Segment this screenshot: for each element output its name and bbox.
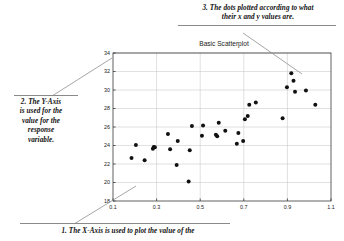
scatterplot-annotated-figure: Basic Scatterplot 1820222426283032340.10… [0,0,344,241]
y-axis-tick-label: 20 [96,179,110,185]
data-point [188,148,192,152]
data-point [223,129,227,133]
data-point [215,134,219,138]
annotation-3-line-2: their x and y values are. [176,13,340,22]
x-axis-tick-label: 1.1 [321,204,341,210]
data-point [281,116,285,120]
annotation-2-rule [14,95,78,96]
data-point [130,156,134,160]
annotation-1-x-axis: 1. The X-Axis is used to plot the value … [18,227,238,236]
data-point [313,103,317,107]
data-point [168,147,172,151]
data-point [235,142,239,146]
annotation-2-y-axis: 2. The Y-Axis is used for the value for … [4,98,78,145]
y-axis-tick-label: 24 [96,142,110,148]
y-axis-tick-label: 28 [96,105,110,111]
annotation-3-dots: 3. The dots plotted according to what th… [176,4,340,23]
data-point [175,163,179,167]
annotation-2-line-1: 2. The Y-Axis [4,98,78,107]
x-axis-tick-label: 0.1 [103,204,123,210]
annotation-2-line-4: response [4,126,78,135]
y-axis-tick-label: 26 [96,124,110,130]
data-point [241,139,245,143]
data-point [176,139,180,143]
data-point [134,143,138,147]
data-point [187,180,191,184]
data-point [200,134,204,138]
annotation-1-line-1: 1. The X-Axis is used to plot the value … [18,227,238,236]
x-axis-tick-label: 0.5 [190,204,210,210]
annotation-2-line-5: variable. [4,136,78,145]
data-point [243,117,247,121]
data-point [254,100,258,104]
data-point [304,88,308,92]
data-point [289,71,293,75]
data-point [247,103,251,107]
data-point [217,121,221,125]
y-axis-tick-label: 30 [96,87,110,93]
x-axis-tick-label: 0.3 [147,204,167,210]
data-point [285,85,289,89]
data-point [190,124,194,128]
y-axis-tick-label: 34 [96,50,110,56]
data-point [166,132,170,136]
data-point [292,79,296,83]
data-point [201,124,205,128]
data-point [153,145,157,149]
data-point [293,90,297,94]
data-point [246,114,250,118]
annotation-2-line-3: value for the [4,117,78,126]
x-axis-tick-label: 0.7 [234,204,254,210]
annotation-3-rule [178,25,336,26]
annotation-3-line-1: 3. The dots plotted according to what [176,4,340,13]
x-axis-tick-label: 0.9 [277,204,297,210]
y-axis-tick-label: 32 [96,68,110,74]
y-axis-tick-label: 22 [96,161,110,167]
annotation-1-rule [20,223,230,224]
data-point [143,158,147,162]
annotation-2-line-2: is used for the [4,107,78,116]
data-point [236,131,240,135]
